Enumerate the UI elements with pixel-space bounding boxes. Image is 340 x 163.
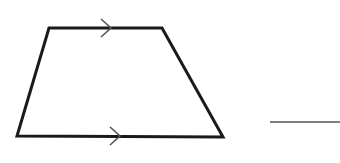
trapezoid-shape [17,28,223,137]
trapezoid-figure [0,0,340,163]
